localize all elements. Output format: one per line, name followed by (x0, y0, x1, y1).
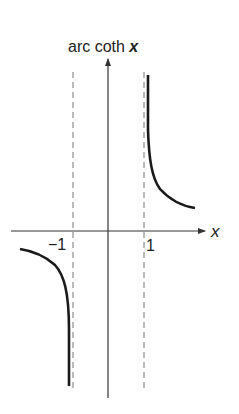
chart-title: arc coth x (68, 38, 139, 55)
curve-negative-branch (20, 249, 69, 386)
x-axis-label: x (210, 222, 220, 241)
title-prefix: arc coth (68, 38, 129, 55)
curve-positive-branch (148, 75, 195, 208)
tick-label-neg1: −1 (48, 236, 66, 253)
title-variable: x (128, 38, 139, 55)
tick-label-pos1: 1 (146, 237, 155, 254)
arccoth-chart: arc coth x −1 1 x (0, 0, 239, 414)
